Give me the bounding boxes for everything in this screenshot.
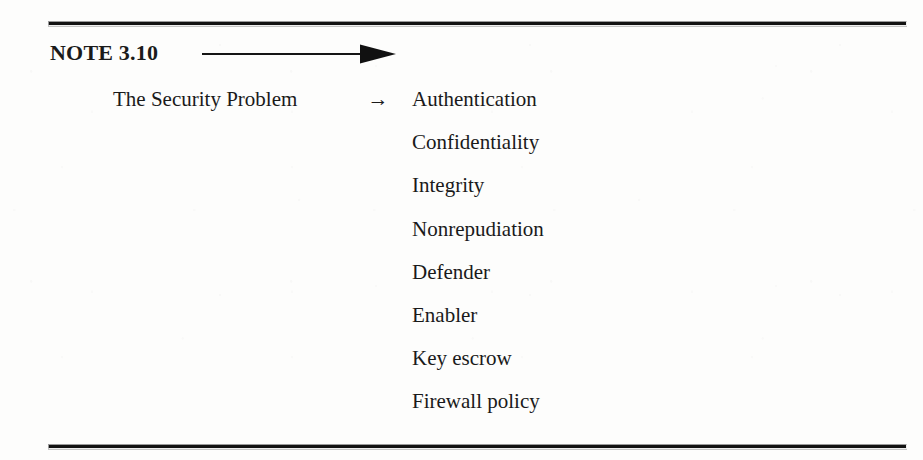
- list-item: Authentication: [412, 84, 872, 127]
- list-item: Integrity: [412, 170, 872, 213]
- list-item: Defender: [412, 257, 872, 300]
- source-term-label: The Security Problem: [113, 89, 297, 110]
- note-label: NOTE 3.10: [50, 42, 158, 64]
- source-term-row: The Security Problem: [113, 84, 297, 114]
- right-arrow-icon: →: [363, 84, 393, 114]
- list-item: Firewall policy: [412, 386, 872, 429]
- long-right-arrow-icon: [202, 43, 396, 65]
- list-item: Nonrepudiation: [412, 214, 872, 257]
- list-item: Enabler: [412, 300, 872, 343]
- list-item: Confidentiality: [412, 127, 872, 170]
- concept-list: Authentication Confidentiality Integrity…: [412, 84, 872, 430]
- note-heading-row: NOTE 3.10: [50, 38, 158, 68]
- top-horizontal-rule: [48, 21, 907, 26]
- list-item: Key escrow: [412, 343, 872, 386]
- bottom-horizontal-rule: [48, 444, 907, 449]
- scanned-page: NOTE 3.10 The Security Problem → Authent…: [0, 0, 923, 460]
